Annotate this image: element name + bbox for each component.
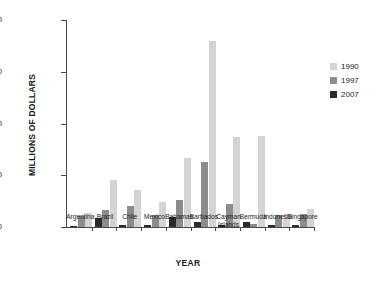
bar-group [167, 20, 192, 227]
legend-swatch [330, 63, 337, 70]
y-axis-tick [61, 175, 67, 176]
bar [292, 225, 299, 227]
legend-swatch [330, 77, 337, 84]
legend-item: 2007 [330, 88, 359, 100]
x-axis-tick [265, 227, 266, 231]
bar [144, 225, 151, 227]
legend-label: 1990 [341, 62, 359, 71]
y-axis-tick [61, 124, 67, 125]
bar-group [290, 20, 315, 227]
y-axis-title: MILLIONS OF DOLLARS [27, 30, 37, 220]
bar [209, 41, 216, 227]
legend-item: 1997 [330, 74, 359, 86]
bar-chart: MILLIONS OF DOLLARS 40000300002000010000… [0, 0, 376, 285]
legend-label: 1997 [341, 76, 359, 85]
bar [194, 222, 201, 227]
bar [70, 226, 77, 227]
plot-area: 400003000020000100000 [68, 20, 315, 227]
legend-label: 2007 [341, 90, 359, 99]
y-axis-tick [61, 20, 67, 21]
x-axis-tick [92, 227, 93, 231]
x-axis-tick [289, 227, 290, 231]
x-axis-tick [166, 227, 167, 231]
bar-group [117, 20, 142, 227]
bar-group [266, 20, 291, 227]
bar-group [192, 20, 217, 227]
legend-item: 1990 [330, 60, 359, 72]
y-axis-tick-label: 20000 [0, 119, 2, 128]
bar [268, 225, 275, 227]
bar-group [241, 20, 266, 227]
y-axis-tick-label: 0 [0, 222, 2, 231]
x-axis-title: YEAR [0, 258, 376, 268]
category-label: Singapore [275, 213, 331, 221]
x-axis-tick [116, 227, 117, 231]
y-axis-tick-label: 10000 [0, 170, 2, 179]
bar-group [68, 20, 93, 227]
y-axis-tick [61, 227, 67, 228]
x-axis-tick [141, 227, 142, 231]
y-axis-tick-label: 40000 [0, 15, 2, 24]
x-axis-tick [314, 227, 315, 231]
bar [119, 225, 126, 227]
y-axis-tick-label: 30000 [0, 67, 2, 76]
legend: 199019972007 [330, 60, 359, 102]
bar-group [216, 20, 241, 227]
bar-group [93, 20, 118, 227]
legend-swatch [330, 91, 337, 98]
bar-group [142, 20, 167, 227]
bar [134, 190, 141, 227]
x-axis-tick [191, 227, 192, 231]
y-axis-tick [61, 72, 67, 73]
